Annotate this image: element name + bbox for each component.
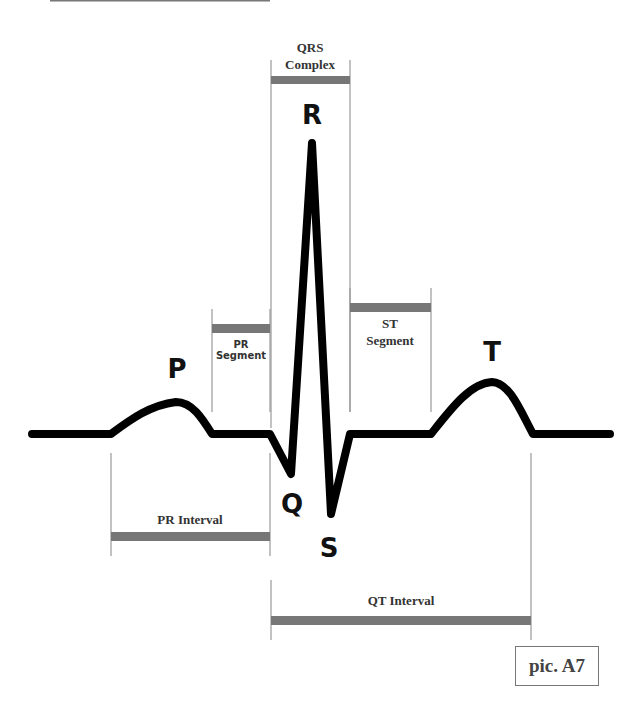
pr-interval-label: PR Interval <box>157 512 223 527</box>
qrs-label-line2: Complex <box>285 57 335 72</box>
pr-segment-label-line1: PR <box>233 339 248 350</box>
s-wave-label: S <box>320 533 339 563</box>
figure-caption: pic. A7 <box>515 646 599 686</box>
p-wave-label: P <box>167 354 186 384</box>
ecg-trace <box>32 143 610 514</box>
st-segment-label-line1: ST <box>382 316 398 331</box>
pr-segment-marker: PR Segment <box>212 309 270 412</box>
ecg-diagram: QRS Complex PR Segment ST Segment PR Int… <box>0 0 641 724</box>
st-segment-label-line2: Segment <box>366 333 414 348</box>
qrs-label-line1: QRS <box>297 40 324 55</box>
q-wave-label: Q <box>281 489 303 519</box>
st-segment-marker: ST Segment <box>350 288 431 412</box>
qt-interval-label: QT Interval <box>368 593 435 608</box>
pr-segment-label-line2: Segment <box>216 350 266 361</box>
qt-interval-marker: QT Interval <box>271 453 531 640</box>
r-wave-label: R <box>302 100 322 130</box>
pr-interval-marker: PR Interval <box>111 453 270 556</box>
qrs-complex-marker: QRS Complex <box>271 40 350 428</box>
t-wave-label: T <box>483 337 501 367</box>
ecg-figure: QRS Complex PR Segment ST Segment PR Int… <box>0 0 641 724</box>
